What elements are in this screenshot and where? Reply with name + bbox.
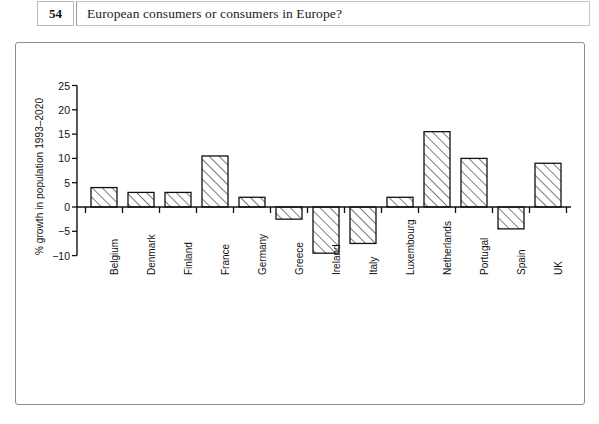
x-tick-label-italy: Italy [368, 257, 379, 275]
x-tick-label-luxembourg: Luxembourg [405, 219, 416, 275]
x-tick-label-germany: Germany [257, 234, 268, 275]
x-tick-label-uk: UK [553, 261, 564, 275]
x-axis-tick-labels: BelgiumDenmarkFinlandFranceGermanyGreece… [16, 43, 586, 406]
x-tick-label-greece: Greece [294, 242, 305, 275]
x-tick-label-finland: Finland [183, 242, 194, 275]
page-number: 54 [49, 6, 62, 22]
x-tick-label-spain: Spain [516, 249, 527, 275]
x-tick-label-france: France [220, 244, 231, 275]
figure-frame: % growth in population 1993–2020 2520151… [15, 42, 585, 405]
x-tick-label-ireland: Ireland [331, 244, 342, 275]
running-head-title: European consumers or consumers in Europ… [77, 6, 342, 22]
bar-chart: % growth in population 1993–2020 2520151… [16, 43, 586, 406]
page-header: 54 European consumers or consumers in Eu… [0, 0, 599, 26]
x-tick-label-netherlands: Netherlands [442, 221, 453, 275]
x-tick-label-portugal: Portugal [479, 238, 490, 275]
running-head-box: European consumers or consumers in Europ… [76, 1, 590, 26]
page-number-box: 54 [37, 1, 74, 26]
x-tick-label-denmark: Denmark [146, 234, 157, 275]
x-tick-label-belgium: Belgium [109, 239, 120, 275]
